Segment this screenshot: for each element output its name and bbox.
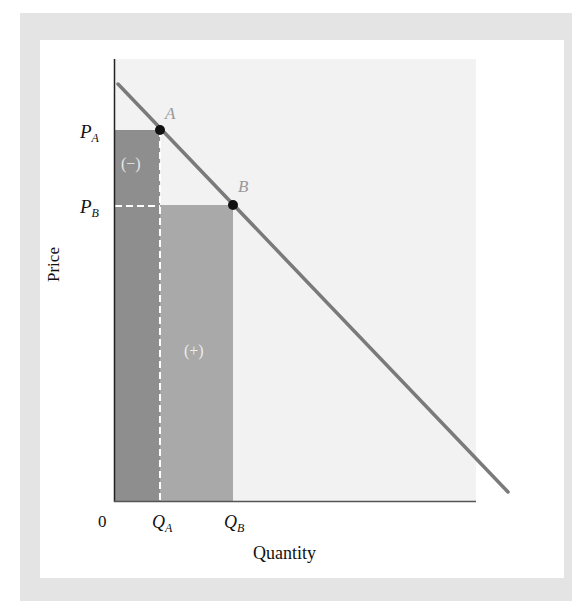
x-tick-qa: QA (152, 512, 172, 536)
point-a-label: A (165, 104, 175, 124)
y-axis-label: Price (44, 247, 64, 282)
minus-region-label: (−) (121, 155, 141, 173)
x-axis-label: Quantity (253, 543, 316, 564)
origin-label: 0 (98, 512, 107, 532)
y-tick-pb: PB (80, 196, 99, 221)
plus-region-label: (+) (184, 342, 204, 360)
point-a-marker (155, 125, 165, 135)
demand-chart (0, 0, 582, 609)
y-tick-pa: PA (80, 121, 99, 146)
x-tick-qb: QB (224, 512, 244, 536)
minus-region (115, 130, 160, 501)
point-b-label: B (238, 177, 248, 197)
point-b-marker (228, 200, 238, 210)
